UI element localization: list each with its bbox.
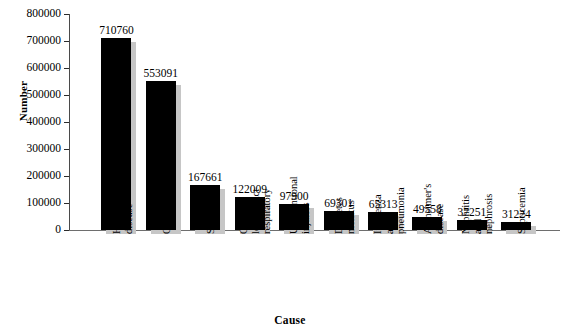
y-axis-tick-label: 200000 [3, 170, 61, 182]
bar-group[interactable]: 710760 [101, 38, 131, 230]
x-axis-category-label: Nephritisandnephrosis [460, 194, 495, 234]
category-label-line: pneumonia [395, 187, 407, 234]
category-label-line: Influenza [372, 187, 384, 234]
bar-value-label: 553091 [144, 67, 179, 79]
category-label-line: nephrosis [483, 194, 495, 234]
y-axis-tick-label: 300000 [3, 143, 61, 155]
bar-value-label: 167661 [188, 171, 223, 183]
category-label-line: and [383, 187, 395, 234]
x-axis-category-label: Unintentionalinjuries [288, 176, 311, 234]
category-label-line: Unintentional [288, 176, 300, 234]
x-axis-category-label: Septicemia [516, 187, 528, 234]
category-label-line: respiratory [261, 189, 273, 234]
y-axis-tick-label: 400000 [3, 116, 61, 128]
category-label-line: mellitus [344, 197, 356, 234]
y-axis-tick-label: 800000 [3, 8, 61, 20]
y-axis-tick-label: 0 [3, 224, 61, 236]
y-axis-tick-label: 600000 [3, 62, 61, 74]
category-label-line: disease [122, 204, 134, 234]
x-axis-category-label: Alzheimer'sdisease [422, 184, 445, 234]
bar-chart: Number 800000700000600000500000400000300… [0, 0, 580, 335]
category-label-line: Nephritis [460, 194, 472, 234]
category-label-line: lower tract [250, 189, 262, 234]
y-axis-tick-label: 500000 [3, 89, 61, 101]
y-axis-tick-label: 100000 [3, 197, 61, 209]
category-label-line: Cancer [161, 204, 173, 234]
x-axis-category-label: Chroniclower tractrespiratory [238, 189, 273, 234]
category-label-line: Chronic [238, 189, 250, 234]
category-label-line: disease [433, 184, 445, 234]
category-label-line: and [472, 194, 484, 234]
y-axis-tick-label: 700000 [3, 35, 61, 47]
category-label-line: injuries [300, 176, 312, 234]
x-axis-category-label: Heartdisease [111, 204, 134, 234]
x-axis-category-label: Influenzaandpneumonia [372, 187, 407, 234]
category-label-line: Diabetes [333, 197, 345, 234]
x-axis-title: Cause [0, 314, 580, 326]
bar-value-label: 710760 [99, 24, 134, 36]
category-label-line: Stroke [205, 207, 217, 234]
x-axis-category-label: Stroke [205, 207, 217, 234]
x-axis-category-label: Diabetesmellitus [333, 197, 356, 234]
bar[interactable] [101, 38, 131, 230]
category-label-line: Heart [111, 204, 123, 234]
category-label-line: Septicemia [516, 187, 528, 234]
category-label-line: Alzheimer's [422, 184, 434, 234]
x-axis-category-label: Cancer [161, 204, 173, 234]
